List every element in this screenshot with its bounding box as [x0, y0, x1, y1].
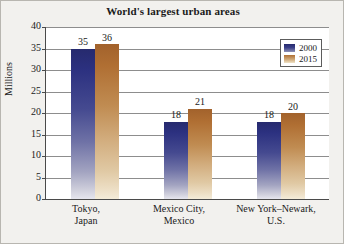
- bar-fill-mexico-city-2015: [188, 109, 212, 199]
- bar-value-mexico-city-2015: 21: [195, 96, 205, 107]
- chart-title: World's largest urban areas: [1, 5, 344, 17]
- legend-swatch-2015-icon: [284, 55, 295, 63]
- y-tick-label-25: 25: [9, 85, 41, 96]
- tickmark-0: [42, 199, 46, 200]
- category-label-tokyo-line1: Tokyo,: [38, 203, 134, 215]
- category-label-mexico-city-line2: Mexico: [131, 215, 227, 227]
- bar-group-mexico-city: 18 21: [164, 27, 212, 199]
- y-tick-label-30: 30: [9, 63, 41, 74]
- tickmark-10: [42, 156, 46, 157]
- tickmark-25: [42, 92, 46, 93]
- legend-label-2015: 2015: [299, 54, 317, 64]
- tickmark-35: [42, 49, 46, 50]
- y-tick-label-35: 35: [9, 42, 41, 53]
- y-tick-label-20: 20: [9, 106, 41, 117]
- tickmark-5: [42, 178, 46, 179]
- bar-fill-tokyo-2015: [95, 44, 119, 199]
- category-label-new-york-line2: U.S.: [221, 215, 331, 227]
- bar-value-tokyo-2015: 36: [102, 32, 112, 43]
- y-tick-label-0: 0: [9, 192, 41, 203]
- y-tick-label-10: 10: [9, 149, 41, 160]
- category-label-mexico-city: Mexico City, Mexico: [131, 203, 227, 227]
- y-tick-label-5: 5: [9, 171, 41, 182]
- legend-label-2000: 2000: [299, 43, 317, 53]
- tickmark-20: [42, 113, 46, 114]
- bar-value-new-york-2000: 18: [264, 109, 274, 120]
- category-label-tokyo: Tokyo, Japan: [38, 203, 134, 227]
- category-label-new-york: New York–Newark, U.S.: [221, 203, 331, 227]
- legend-item-2000[interactable]: 2000: [284, 42, 317, 53]
- category-label-tokyo-line2: Japan: [38, 215, 134, 227]
- bar-fill-tokyo-2000: [71, 49, 95, 200]
- bar-fill-new-york-2015: [281, 113, 305, 199]
- bar-group-tokyo: 35 36: [71, 27, 119, 199]
- category-label-mexico-city-line1: Mexico City,: [131, 203, 227, 215]
- y-tick-label-40: 40: [9, 20, 41, 31]
- y-tick-label-15: 15: [9, 128, 41, 139]
- legend-item-2015[interactable]: 2015: [284, 53, 317, 64]
- bar-fill-new-york-2000: [257, 122, 281, 199]
- tickmark-40: [42, 27, 46, 28]
- bar-value-mexico-city-2000: 18: [171, 109, 181, 120]
- category-label-new-york-line1: New York–Newark,: [221, 203, 331, 215]
- chart-figure: World's largest urban areas Millions 40 …: [0, 0, 344, 244]
- bar-value-tokyo-2000: 35: [78, 36, 88, 47]
- legend-swatch-2000-icon: [284, 44, 295, 52]
- chart-legend[interactable]: 2000 2015: [280, 39, 322, 67]
- bar-value-new-york-2015: 20: [288, 101, 298, 112]
- tickmark-15: [42, 135, 46, 136]
- tickmark-30: [42, 70, 46, 71]
- y-axis-ticks: 40 35 30 25 20 15 10 5 0: [9, 27, 41, 199]
- bar-fill-mexico-city-2000: [164, 122, 188, 199]
